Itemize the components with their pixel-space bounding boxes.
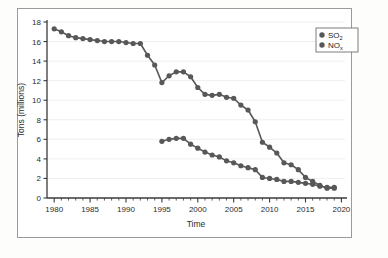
axes <box>47 20 347 198</box>
data-point <box>138 41 143 46</box>
x-axis-title: Time <box>187 219 206 229</box>
data-point <box>109 39 114 44</box>
data-point <box>145 53 150 58</box>
y-tick-label: 10 <box>32 96 41 105</box>
data-point <box>131 41 136 46</box>
x-tick-label: 1985 <box>81 205 99 214</box>
data-point <box>188 142 193 147</box>
x-tick-label: 1995 <box>153 205 171 214</box>
figure-canvas: 0246810121416181980198519901995200020052… <box>0 0 388 258</box>
y-tick-label: 12 <box>32 77 41 86</box>
series-SO2 <box>52 26 337 191</box>
data-point <box>253 167 258 172</box>
y-tick-label: 4 <box>37 155 42 164</box>
x-tick-label: 2000 <box>189 205 207 214</box>
data-point <box>174 69 179 74</box>
data-point <box>274 177 279 182</box>
data-point <box>245 107 250 112</box>
data-point <box>202 92 207 97</box>
y-tick-label: 6 <box>37 135 42 144</box>
x-tick-label: 1990 <box>117 205 135 214</box>
data-point <box>303 175 308 180</box>
y-tick-label: 0 <box>37 194 42 203</box>
y-tick-label: 8 <box>37 116 42 125</box>
data-point <box>231 160 236 165</box>
x-tick-label: 2005 <box>225 205 243 214</box>
data-point <box>289 162 294 167</box>
data-point <box>174 136 179 141</box>
x-tick-label: 1980 <box>45 205 63 214</box>
data-point <box>260 140 265 145</box>
data-point <box>317 184 322 189</box>
data-point <box>73 35 78 40</box>
data-point <box>52 26 57 31</box>
data-point <box>332 185 337 190</box>
data-point <box>289 179 294 184</box>
y-tick-label: 16 <box>32 38 41 47</box>
y-tick-label: 18 <box>32 18 41 27</box>
data-point <box>217 92 222 97</box>
data-point <box>195 146 200 151</box>
data-point <box>310 182 315 187</box>
legend: SO2NOx <box>316 28 358 52</box>
y-axis-title: Tons (millions) <box>16 83 26 137</box>
data-point <box>116 39 121 44</box>
data-point <box>59 29 64 34</box>
data-point <box>188 74 193 79</box>
data-point <box>274 150 279 155</box>
data-point <box>195 85 200 90</box>
data-point <box>217 154 222 159</box>
y-tick-label: 2 <box>37 174 42 183</box>
data-point <box>267 176 272 181</box>
data-point <box>80 36 85 41</box>
data-point <box>123 40 128 45</box>
data-point <box>159 139 164 144</box>
data-point <box>87 37 92 42</box>
data-point <box>281 160 286 165</box>
y-tick-label: 14 <box>32 57 41 66</box>
data-point <box>281 179 286 184</box>
data-point <box>267 145 272 150</box>
data-point <box>166 73 171 78</box>
data-point <box>210 93 215 98</box>
data-point <box>296 167 301 172</box>
data-point <box>66 33 71 38</box>
data-point <box>245 165 250 170</box>
data-point <box>102 39 107 44</box>
x-tick-label: 2015 <box>297 205 315 214</box>
data-point <box>224 95 229 100</box>
data-point <box>159 80 164 85</box>
x-tick-label: 2020 <box>333 205 351 214</box>
data-point <box>238 103 243 108</box>
data-point <box>238 163 243 168</box>
data-point <box>303 181 308 186</box>
x-axis-ticks: 198019851990199520002005201020152020 <box>45 198 351 214</box>
data-point <box>324 185 329 190</box>
gridlines <box>47 22 345 178</box>
data-point <box>253 119 258 124</box>
data-point <box>202 149 207 154</box>
data-point <box>296 180 301 185</box>
data-point <box>181 136 186 141</box>
data-point <box>152 62 157 67</box>
x-tick-label: 2010 <box>261 205 279 214</box>
data-point <box>95 38 100 43</box>
data-point <box>166 137 171 142</box>
data-point <box>231 96 236 101</box>
line-chart: 0246810121416181980198519901995200020052… <box>0 0 388 258</box>
data-point <box>224 158 229 163</box>
data-point <box>260 175 265 180</box>
y-axis-ticks: 024681012141618 <box>32 18 47 203</box>
data-point <box>210 152 215 157</box>
legend-marker-SO2 <box>319 32 324 37</box>
data-point <box>181 69 186 74</box>
legend-marker-NOx <box>319 42 324 47</box>
